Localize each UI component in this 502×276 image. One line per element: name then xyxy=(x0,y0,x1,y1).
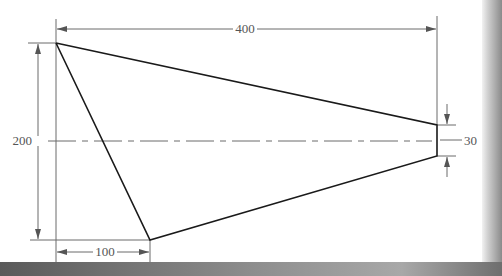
drawing-svg: 400 200 100 30 xyxy=(0,0,502,276)
diagram-canvas: 400 200 100 30 xyxy=(0,0,502,276)
page-edge-shadow-right xyxy=(482,0,502,264)
dimension-label-30: 30 xyxy=(464,133,477,148)
dimension-label-200: 200 xyxy=(13,133,33,148)
dimension-label-400: 400 xyxy=(235,21,255,36)
page-edge-shadow-bottom xyxy=(0,262,502,276)
dimension-label-100: 100 xyxy=(95,244,115,259)
